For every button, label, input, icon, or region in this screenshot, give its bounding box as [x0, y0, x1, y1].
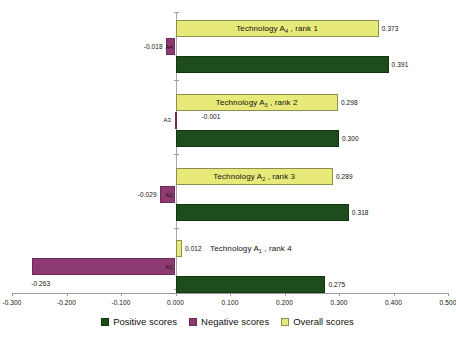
negative-score-row: -0.263A1	[12, 258, 448, 275]
overall-score-row: 0.298Technology A3 , rank 2	[12, 94, 448, 111]
x-axis-tick	[230, 293, 231, 296]
overall-score-bar[interactable]	[176, 240, 183, 257]
negative-score-bar[interactable]	[32, 258, 175, 275]
legend-swatch-icon	[101, 318, 109, 326]
negative-score-value-label: -0.029	[138, 186, 157, 203]
overall-score-row: 0.012Technology A1 , rank 4	[12, 240, 448, 257]
x-axis-tick	[176, 293, 177, 296]
negative-score-value-label: -0.001	[202, 112, 221, 122]
plot-area: 0.373Technology A4 , rank 1-0.018A40.391…	[12, 8, 448, 293]
negative-score-row: -0.018A4	[12, 38, 448, 55]
positive-score-bar[interactable]	[176, 204, 349, 221]
positive-score-row: 0.391	[12, 56, 448, 73]
x-axis-tick-label: 0.200	[276, 298, 293, 307]
zero-axis-tick	[174, 12, 179, 13]
x-axis-tick	[12, 293, 13, 296]
legend-label: Negative scores	[201, 316, 269, 327]
series-annotation-label: Technology A2 , rank 3	[176, 168, 334, 186]
positive-score-row: 0.300	[12, 130, 448, 147]
x-axis: -0.300-0.200-0.1000.0000.1000.2000.3000.…	[12, 293, 448, 315]
legend-swatch-icon	[189, 318, 197, 326]
category-tag-a3: A3	[164, 115, 171, 125]
positive-score-value-label: 0.391	[392, 56, 409, 73]
legend-swatch-icon	[281, 318, 289, 326]
negative-score-bar[interactable]	[175, 112, 177, 129]
positive-score-value-label: 0.300	[342, 130, 359, 147]
x-axis-tick-label: 0.300	[331, 298, 348, 307]
positive-score-value-label: 0.275	[328, 276, 345, 293]
positive-score-bar[interactable]	[176, 276, 326, 293]
legend-item[interactable]: Negative scores	[189, 316, 269, 327]
x-axis-tick-label: -0.200	[57, 298, 76, 307]
x-axis-tick	[448, 293, 449, 296]
category-tag-a4: A4	[166, 42, 173, 52]
overall-score-value-label: 0.289	[336, 168, 353, 185]
legend-item[interactable]: Positive scores	[101, 316, 177, 327]
series-annotation-label: Technology A3 , rank 2	[176, 94, 338, 112]
zero-axis-tick	[174, 80, 179, 81]
x-axis-tick-label: -0.100	[111, 298, 130, 307]
category-tag-a1: A1	[166, 262, 173, 272]
positive-score-bar[interactable]	[176, 56, 389, 73]
overall-score-value-label: 0.298	[341, 94, 358, 111]
positive-score-value-label: 0.318	[352, 204, 369, 221]
category-tag-a2: A2	[166, 190, 173, 200]
overall-score-row: 0.373Technology A4 , rank 1	[12, 20, 448, 37]
overall-score-value-label: 0.373	[382, 20, 399, 37]
negative-score-value-label: -0.018	[144, 38, 163, 55]
x-axis-tick-label: 0.400	[385, 298, 402, 307]
x-axis-tick-label: 0.500	[440, 298, 456, 307]
x-axis-tick-label: 0.100	[222, 298, 239, 307]
x-axis-tick	[285, 293, 286, 296]
x-axis-tick	[339, 293, 340, 296]
overall-score-row: 0.289Technology A2 , rank 3	[12, 168, 448, 185]
legend-label: Overall scores	[293, 316, 354, 327]
positive-score-bar[interactable]	[176, 130, 340, 147]
x-axis-tick	[121, 293, 122, 296]
positive-score-row: 0.275	[12, 276, 448, 293]
zero-axis-tick	[174, 228, 179, 229]
negative-score-row: -0.001A3	[12, 112, 448, 129]
chart-legend: Positive scoresNegative scoresOverall sc…	[0, 316, 455, 327]
series-annotation-label: Technology A4 , rank 1	[176, 20, 379, 38]
x-axis-tick	[67, 293, 68, 296]
negative-score-row: -0.029A2	[12, 186, 448, 203]
zero-axis-tick	[174, 154, 179, 155]
x-axis-tick-label: 0.000	[167, 298, 184, 307]
positive-score-row: 0.318	[12, 204, 448, 221]
overall-score-value-label: 0.012	[185, 240, 202, 257]
x-axis-tick-label: -0.300	[2, 298, 21, 307]
series-annotation-label: Technology A1 , rank 4	[210, 240, 292, 258]
legend-item[interactable]: Overall scores	[281, 316, 354, 327]
legend-label: Positive scores	[113, 316, 177, 327]
x-axis-tick	[394, 293, 395, 296]
